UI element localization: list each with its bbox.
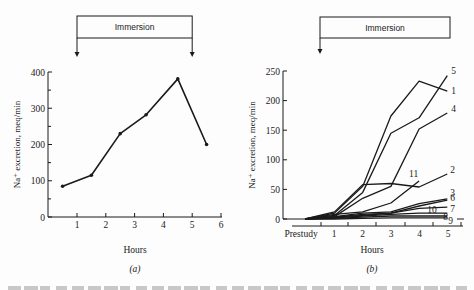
caption-text-fragment [8, 286, 21, 290]
panel-b: Immersion 050100150200250 Prestudy12345 … [247, 17, 464, 275]
data-point-a [176, 77, 180, 81]
caption-text-fragment [376, 286, 387, 290]
x-tick-labels-a: 123456 [75, 220, 224, 230]
y-tick-label-a: 200 [31, 140, 46, 150]
y-tick-label-a: 100 [31, 176, 46, 186]
series-line-subject-5 [305, 76, 447, 219]
x-tick-label-b: Prestudy [284, 229, 318, 239]
arrow-down-icon [318, 49, 323, 54]
series-line-subject-1 [305, 81, 447, 219]
axes-a [48, 72, 222, 217]
caption-text-fragment [312, 286, 324, 290]
series-line-mean [63, 79, 207, 186]
caption-text-fragment [184, 286, 198, 290]
series-label-subject-9: 9 [448, 216, 453, 226]
caption-text-fragment [328, 286, 341, 290]
x-tick-label-b: 2 [360, 229, 365, 239]
caption-text-fragment [216, 286, 227, 290]
data-point-a [205, 143, 209, 147]
series-label-subject-4: 4 [451, 104, 456, 114]
y-tick-label-b: 250 [266, 67, 281, 77]
caption-text-fragment [440, 286, 450, 290]
caption-text-fragment [344, 286, 358, 290]
y-tick-label-a: 300 [31, 104, 46, 114]
panel-label-b: (b) [366, 264, 377, 275]
series-label-subject-5: 5 [451, 66, 456, 76]
series-label-subject-6: 6 [450, 193, 455, 203]
y-axis-label-b: Na⁺ excretion, meq/min [247, 101, 257, 189]
series-label-subject-1: 1 [451, 86, 456, 96]
immersion-label-a: Immersion [115, 22, 155, 32]
caption-text-fragment [88, 286, 101, 290]
caption-text-fragment [232, 286, 244, 290]
x-tick-label-a: 2 [103, 220, 108, 230]
series-label-subject-11: 11 [409, 169, 418, 179]
series-label-subject-10: 10 [427, 205, 437, 215]
caption-text-fragment [424, 286, 438, 290]
caption-text-fragment [136, 286, 147, 290]
immersion-label-b: Immersion [365, 23, 405, 33]
data-point-a [118, 132, 122, 136]
data-point-a [61, 184, 65, 188]
caption-text-fragment [120, 286, 130, 290]
arrow-down-icon [190, 52, 195, 57]
caption-text-fragment [152, 286, 164, 290]
y-tick-label-b: 50 [271, 185, 281, 195]
caption-text-fragment [24, 286, 38, 290]
y-axis-label-a: Na⁺ excretion, meq/min [12, 100, 22, 188]
caption-text-fragment [56, 286, 67, 290]
y-tick-label-b: 150 [266, 126, 281, 136]
caption-text-fragment [408, 286, 421, 290]
y-tick-labels-a: 0100200300400 [31, 68, 46, 223]
x-tick-labels-b: Prestudy12345 [284, 229, 450, 239]
x-tick-label-b: 3 [389, 229, 394, 239]
caption-text-fragment [40, 286, 50, 290]
caption-text-fragment [360, 286, 370, 290]
caption-text-fragment [104, 286, 118, 290]
x-tick-label-b: 1 [332, 229, 337, 239]
y-tick-label-a: 0 [40, 213, 45, 223]
y-tick-labels-b: 050100150200250 [266, 67, 281, 225]
y-tick-label-b: 100 [266, 155, 281, 165]
series-label-subject-2: 2 [450, 165, 455, 175]
x-tick-label-a: 5 [190, 220, 195, 230]
caption-text-fragment [280, 286, 290, 290]
series-a [61, 77, 209, 188]
panel-label-a: (a) [129, 264, 140, 275]
caption-text-fragment [392, 286, 404, 290]
x-tick-label-b: 4 [417, 229, 422, 239]
x-tick-label-b: 5 [446, 229, 451, 239]
caption-text-fragment [248, 286, 261, 290]
caption-text-fragment [264, 286, 278, 290]
caption-text-fragment [168, 286, 181, 290]
x-axis-label-b: Hours [360, 245, 384, 255]
x-tick-label-a: 6 [219, 220, 224, 230]
x-axis-label-a: Hours [123, 245, 147, 255]
data-point-a [144, 113, 148, 117]
x-tick-label-a: 1 [75, 220, 80, 230]
caption-text-fragment [296, 286, 307, 290]
caption-text-fragment [456, 286, 467, 290]
y-tick-label-b: 200 [266, 96, 281, 106]
caption-text-fragment [200, 286, 210, 290]
caption-text-fragment [72, 286, 84, 290]
panel-a: Immersion 0100200300400 123456 Na⁺ excre… [12, 16, 224, 275]
figure-caption-fragment [8, 286, 467, 290]
series-b [305, 76, 447, 219]
figure-canvas: Immersion 0100200300400 123456 Na⁺ excre… [0, 0, 474, 290]
x-tick-label-a: 3 [132, 220, 137, 230]
series-label-subject-7: 7 [450, 204, 455, 214]
y-tick-label-a: 400 [31, 68, 46, 78]
arrow-down-icon [75, 52, 80, 57]
y-tick-label-b: 0 [275, 215, 280, 225]
data-point-a [90, 174, 94, 178]
x-tick-label-a: 4 [161, 220, 166, 230]
